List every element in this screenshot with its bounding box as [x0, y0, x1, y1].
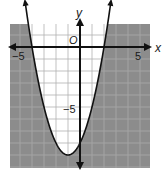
x-axis-label: x [154, 41, 162, 55]
curve-arrow-left-icon [23, 0, 29, 6]
x-tick-label-5: 5 [135, 50, 141, 62]
origin-label: O [69, 34, 78, 46]
x-tick-label-neg5: −5 [12, 50, 25, 62]
parabola-inequality-graph: x y O −5 5 −5 [0, 0, 166, 178]
y-tick-label-neg5: −5 [63, 103, 76, 115]
curve-arrow-right-icon [107, 0, 113, 6]
y-axis-label: y [75, 6, 83, 20]
